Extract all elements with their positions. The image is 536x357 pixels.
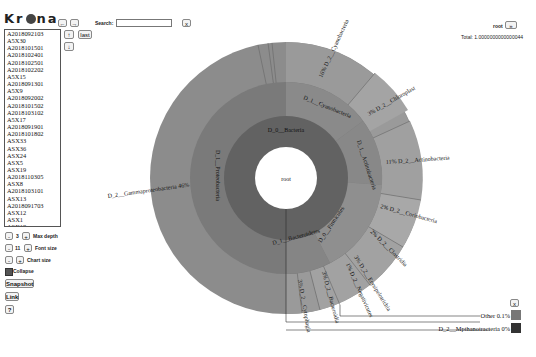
legend-item-mpthanotracteria-swatch	[511, 323, 521, 333]
legend-item-other-swatch	[511, 310, 521, 320]
krona-sunburst-chart[interactable]: root D_0__Bacteria D_1__Proteobacteria D…	[0, 0, 536, 357]
proteobacteria-label: D_1__Proteobacteria	[215, 150, 221, 201]
legend-item-other-label: Other 0.1%	[481, 312, 510, 319]
legend-item-mpthanotracteria-label: D_2__Mpthanotracteria 0%	[438, 325, 510, 332]
level0-label: D_0__Bacteria	[268, 127, 305, 133]
legend-close-button[interactable]: x	[510, 299, 519, 307]
center-label: root	[281, 176, 291, 182]
